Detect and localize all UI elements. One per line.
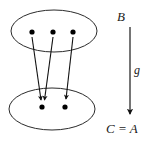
function-name-label: g [134, 64, 140, 76]
codomain-element-dot [39, 104, 44, 109]
domain-element-dot [29, 29, 34, 34]
mapping-arrow-1 [32, 37, 41, 100]
domain-element-dot [50, 29, 55, 34]
lower-set-oval [9, 88, 95, 130]
set-mapping-figure: B g C = A [0, 0, 162, 143]
target-set-label: C = A [106, 122, 138, 135]
source-set-label: B [117, 10, 125, 23]
domain-element-dot [70, 29, 75, 34]
codomain-element-dot [62, 104, 67, 109]
mapping-arrow-2 [45, 37, 54, 100]
